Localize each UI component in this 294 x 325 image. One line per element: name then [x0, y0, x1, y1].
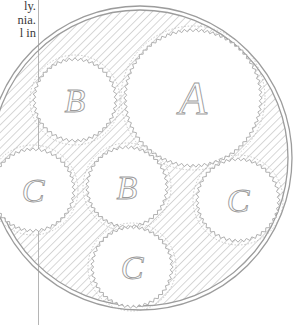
circle-label: C — [121, 249, 144, 286]
circle-packing-figure: ABBCCC — [0, 0, 294, 325]
circle-label: C — [227, 182, 250, 219]
circle-label: A — [176, 73, 208, 124]
circle-label: C — [22, 172, 45, 209]
circle-label: B — [65, 82, 86, 119]
circle-label: B — [117, 169, 138, 206]
